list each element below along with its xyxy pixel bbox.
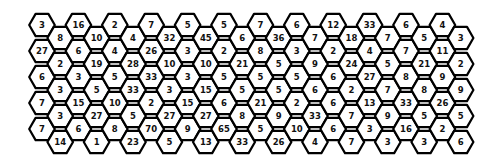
hex-cell-value: 4 <box>367 46 373 56</box>
hex-cell-value: 13 <box>200 137 212 147</box>
hex-cell-value: 15 <box>200 85 212 95</box>
hex-cell-value: 33 <box>145 72 157 82</box>
hex-grid: 3276778233141663156101952712451084283352… <box>0 0 489 167</box>
hex-cell-value: 9 <box>276 111 282 121</box>
hex-cell-value: 6 <box>39 72 45 82</box>
hex-cell-value: 33 <box>400 98 412 108</box>
hex-cell-value: 2 <box>57 59 63 69</box>
hex-cell-value: 6 <box>75 124 81 134</box>
hex-cell-value: 5 <box>185 20 191 30</box>
hex-cell-value: 8 <box>257 46 263 56</box>
hex-cell-value: 26 <box>273 137 285 147</box>
hex-cell-value: 4 <box>130 33 136 43</box>
hex-cell-value: 3 <box>57 85 63 95</box>
hex-cell-value: 4 <box>439 20 445 30</box>
hex-cell-value: 8 <box>112 124 118 134</box>
hex-cell-value: 28 <box>127 59 139 69</box>
hex-cell-value: 21 <box>254 98 266 108</box>
hex-cell-value: 10 <box>163 59 175 69</box>
hex-cell-value: 2 <box>112 20 118 30</box>
hex-cell-value: 18 <box>345 33 357 43</box>
hex-cell-value: 10 <box>291 124 303 134</box>
hex-cell-value: 70 <box>145 124 157 134</box>
hex-cell-value: 5 <box>166 137 172 147</box>
hex-cell-value: 16 <box>400 124 412 134</box>
hex-cell-value: 27 <box>364 72 376 82</box>
hex-puzzle-board: 3276778233141663156101952712451084283352… <box>0 0 489 167</box>
hex-cell-value: 4 <box>112 46 118 56</box>
hex-cell[interactable]: 6 <box>448 131 474 153</box>
hex-cell-value: 15 <box>182 98 194 108</box>
hex-cell-value: 13 <box>364 98 376 108</box>
hex-cell-value: 26 <box>436 98 448 108</box>
hex-cell-value: 4 <box>312 137 318 147</box>
hex-cell-value: 3 <box>294 46 300 56</box>
hex-cell-value: 2 <box>294 98 300 108</box>
hex-cell-value: 33 <box>309 111 321 121</box>
hex-cell-value: 24 <box>345 59 357 69</box>
hex-cell-value: 7 <box>348 137 354 147</box>
hex-cell-value: 3 <box>166 85 172 95</box>
hex-cell-value: 33 <box>364 20 376 30</box>
hex-cell-value: 3 <box>57 111 63 121</box>
hex-cell-value: 14 <box>54 137 66 147</box>
hex-cell-value: 3 <box>421 137 427 147</box>
hex-cell-value: 2 <box>330 46 336 56</box>
hex-cell-value: 7 <box>385 33 391 43</box>
hex-cell-value: 6 <box>330 72 336 82</box>
hex-cell-value: 7 <box>148 20 154 30</box>
hex-cell-value: 10 <box>200 59 212 69</box>
hex-cell-value: 5 <box>421 33 427 43</box>
hex-cell-value: 6 <box>458 137 464 147</box>
hex-cell-value: 6 <box>221 98 227 108</box>
hex-cell-value: 21 <box>236 59 248 69</box>
hex-cell-value: 7 <box>312 33 318 43</box>
hex-cell-value: 33 <box>236 137 248 147</box>
hex-cell-value: 9 <box>385 111 391 121</box>
hex-cell-value: 5 <box>276 59 282 69</box>
hex-cell-value: 7 <box>39 98 45 108</box>
hex-cell-value: 33 <box>127 85 139 95</box>
hex-cell-value: 5 <box>257 72 263 82</box>
hex-cell-value: 27 <box>163 111 175 121</box>
hex-cell-value: 2 <box>458 59 464 69</box>
hex-cell-value: 15 <box>72 98 84 108</box>
hex-cell-value: 27 <box>200 111 212 121</box>
hex-cell-value: 5 <box>294 72 300 82</box>
hex-cell-value: 8 <box>421 85 427 95</box>
hex-cell-value: 2 <box>148 98 154 108</box>
hex-cell-value: 3 <box>367 124 373 134</box>
hex-cell-value: 9 <box>312 59 318 69</box>
hex-cell-value: 6 <box>294 20 300 30</box>
hex-cell-value: 3 <box>39 20 45 30</box>
hex-cell-value: 26 <box>145 46 157 56</box>
hex-cell-value: 65 <box>218 124 230 134</box>
hex-cell-value: 5 <box>276 85 282 95</box>
hex-cell-value: 5 <box>421 111 427 121</box>
hex-cell-value: 2 <box>439 124 445 134</box>
hex-cell-value: 5 <box>94 85 100 95</box>
hex-cell-value: 11 <box>436 46 448 56</box>
hex-cell[interactable]: 9 <box>448 79 474 101</box>
hex-cell-value: 7 <box>257 20 263 30</box>
hex-cell-value: 6 <box>312 85 318 95</box>
hex-cell-value: 9 <box>185 124 191 134</box>
hex-cell[interactable]: 2 <box>448 53 474 75</box>
hex-cell-value: 27 <box>36 46 48 56</box>
hex-cell-value: 1 <box>94 137 100 147</box>
hex-cell-value: 23 <box>127 137 139 147</box>
hex-cell-value: 2 <box>221 46 227 56</box>
hex-cell[interactable]: 5 <box>448 105 474 127</box>
hex-cell-value: 21 <box>418 59 430 69</box>
hex-cell-value: 36 <box>273 33 285 43</box>
hex-cell[interactable]: 3 <box>448 27 474 49</box>
hex-cell-value: 10 <box>91 33 103 43</box>
hex-cell-value: 9 <box>439 72 445 82</box>
hex-cell-value: 6 <box>330 98 336 108</box>
hex-cell-value: 7 <box>39 124 45 134</box>
hex-cell-value: 5 <box>112 72 118 82</box>
hex-cell-value: 6 <box>239 33 245 43</box>
hex-cell-value: 2 <box>348 85 354 95</box>
hex-cell-value: 3 <box>185 72 191 82</box>
hex-cell-value: 5 <box>221 72 227 82</box>
